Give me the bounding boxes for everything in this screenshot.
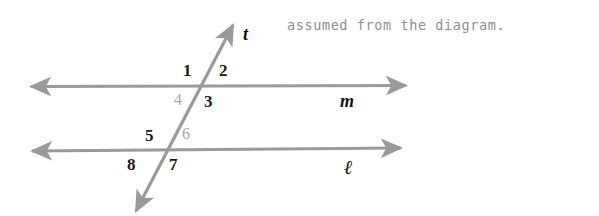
transversal-line-t — [136, 25, 233, 211]
line-name-label-t: t — [243, 25, 248, 43]
angle-label-5: 5 — [145, 127, 154, 144]
caption-text: assumed from the diagram. — [287, 17, 505, 33]
line-name-label-m: m — [340, 92, 354, 110]
line-ell — [32, 148, 401, 151]
angle-label-8: 8 — [127, 156, 136, 173]
line-name-label-ell: ℓ — [344, 157, 353, 177]
angle-label-2: 2 — [219, 62, 228, 79]
angle-label-4: 4 — [174, 92, 182, 108]
angle-label-3: 3 — [204, 93, 213, 110]
angle-label-7: 7 — [169, 156, 178, 173]
angle-label-6: 6 — [182, 126, 190, 142]
line-m — [31, 86, 406, 87]
angle-label-1: 1 — [183, 62, 192, 79]
geometry-figure-page: 1 2 4 3 5 6 8 7 t m ℓ assumed from the d… — [0, 0, 599, 216]
